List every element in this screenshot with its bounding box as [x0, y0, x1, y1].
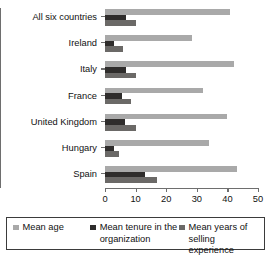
bar-group [105, 9, 265, 26]
legend-item-mean-tenure: Mean tenure in the organization [90, 222, 179, 245]
bar-group [105, 88, 265, 105]
bar [105, 99, 131, 105]
bar-chart: All six countriesIrelandItalyFranceUnite… [0, 0, 273, 257]
legend-item-mean-selling-experience: Mean years of selling experience [179, 222, 262, 257]
legend-label: Mean tenure in the organization [100, 222, 179, 245]
bar [105, 177, 157, 183]
bar [105, 73, 136, 79]
category-label: All six countries [32, 12, 97, 22]
x-axis-tick [105, 188, 106, 192]
chart-legend: Mean age Mean tenure in the organization… [6, 217, 265, 250]
legend-swatch-icon [90, 225, 96, 231]
x-axis-tick-label: 30 [192, 194, 202, 204]
x-axis-tick [258, 188, 259, 192]
x-axis-tick [136, 188, 137, 192]
bar-group [105, 35, 265, 52]
x-axis-tick [227, 188, 228, 192]
x-axis-tick-label: 10 [130, 194, 140, 204]
bar [105, 151, 119, 157]
bar-group [105, 140, 265, 157]
x-axis-tick-label: 50 [253, 194, 263, 204]
bar [105, 125, 136, 131]
legend-label: Mean age [23, 222, 64, 234]
legend-label: Mean years of selling experience [189, 222, 263, 257]
category-label: United Kingdom [31, 117, 97, 127]
bar-group [105, 166, 265, 183]
x-axis-line [105, 188, 258, 189]
category-label: Ireland [69, 38, 97, 48]
x-axis-tick-label: 20 [161, 194, 171, 204]
bar [105, 35, 192, 41]
x-axis-tick-label: 40 [222, 194, 232, 204]
x-axis-tick [197, 188, 198, 192]
y-axis-line [0, 8, 1, 188]
legend-item-mean-age: Mean age [13, 222, 90, 234]
bar [105, 140, 209, 146]
bar [105, 46, 123, 52]
bar-group [105, 114, 265, 131]
category-label: Hungary [62, 143, 97, 153]
x-axis-tick-label: 0 [102, 194, 107, 204]
category-label: Spain [73, 169, 97, 179]
category-axis-labels: All six countriesIrelandItalyFranceUnite… [0, 8, 101, 188]
bar-group [105, 61, 265, 78]
legend-swatch-icon [13, 225, 19, 231]
bar [105, 20, 136, 26]
plot-area: All six countriesIrelandItalyFranceUnite… [0, 0, 273, 212]
category-label: France [68, 91, 97, 101]
x-axis-tick [166, 188, 167, 192]
legend-swatch-icon [179, 225, 185, 231]
category-label: Italy [80, 64, 97, 74]
